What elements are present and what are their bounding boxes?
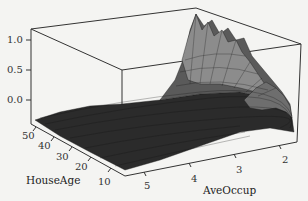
y-tick-label: 30 — [56, 151, 69, 162]
z-tick-label: 1.0 — [7, 34, 23, 45]
z-axis-ticks — [26, 40, 31, 100]
y-tick-label: 20 — [75, 161, 88, 172]
surface-peaks — [182, 14, 266, 92]
z-tick-label: 0.0 — [7, 94, 23, 105]
y-axis-title: HouseAge — [26, 174, 80, 186]
x-tick-label: 5 — [144, 180, 150, 191]
y-tick-label: 50 — [22, 130, 35, 141]
x-tick-label: 3 — [236, 164, 242, 175]
x-axis-title: AveOccup — [203, 184, 256, 196]
y-tick-label: 10 — [98, 176, 111, 187]
z-tick-label: 0.5 — [7, 64, 23, 75]
x-tick-label: 2 — [282, 154, 288, 165]
surface-plot — [0, 0, 308, 201]
surface — [35, 14, 294, 170]
x-tick-label: 4 — [191, 173, 197, 184]
y-tick-label: 40 — [38, 140, 51, 151]
